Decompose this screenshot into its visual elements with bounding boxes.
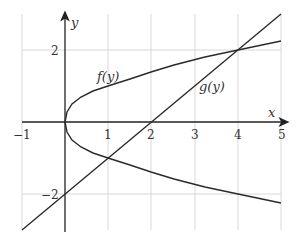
x-tick-m1: −1 <box>13 128 31 142</box>
y-tick-2: 2 <box>51 44 59 58</box>
y-axis-label: y <box>70 15 79 30</box>
g-label: g(y) <box>199 79 225 94</box>
f-label: f(y) <box>96 69 119 84</box>
x-tick-2: 2 <box>147 128 155 142</box>
x-tick-1: 1 <box>104 128 112 142</box>
y-tick-m2: −2 <box>41 188 59 202</box>
chart: −1 1 2 3 4 5 2 −2 x y f(y) g(y) <box>0 0 298 243</box>
x-tick-5: 5 <box>278 128 286 142</box>
x-tick-3: 3 <box>191 128 199 142</box>
x-axis-label: x <box>268 105 276 120</box>
x-tick-4: 4 <box>234 128 242 142</box>
axes <box>22 12 288 232</box>
